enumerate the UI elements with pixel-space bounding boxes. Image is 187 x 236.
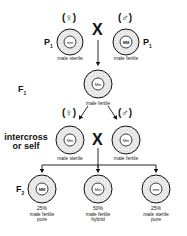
f2-result-MM: 25% male fertile pure bbox=[22, 206, 62, 223]
f2-result-mm: 25% male sterile pure bbox=[136, 206, 176, 223]
genotype-label: Mm bbox=[64, 138, 76, 143]
phenotype-label: male sterile bbox=[50, 156, 90, 161]
arrow-to-intercross-left bbox=[80, 106, 88, 118]
genotype-label: MM bbox=[120, 40, 132, 45]
phenotype-label: male fertile bbox=[106, 56, 146, 61]
male-symbol: (♂) bbox=[118, 108, 132, 118]
generation-label-f1: F1 bbox=[18, 84, 26, 96]
genotype-label: Mm bbox=[92, 187, 104, 192]
generation-label-f2: F2 bbox=[16, 184, 24, 196]
arrow-to-intercross-right bbox=[108, 106, 116, 118]
female-symbol: (♀) bbox=[62, 13, 76, 23]
genotype-label: mm bbox=[150, 187, 162, 192]
genotype-label: MM bbox=[36, 187, 48, 192]
phenotype-label: male fertile bbox=[78, 101, 118, 106]
cross-symbol: X bbox=[92, 22, 103, 38]
phenotype-label: male fertile bbox=[106, 156, 146, 161]
cross-symbol: X bbox=[92, 132, 103, 148]
genotype-label: mm bbox=[64, 40, 76, 45]
phenotype-label: male sterile bbox=[50, 56, 90, 61]
generation-label-p1-left: P1 bbox=[44, 37, 53, 49]
male-symbol: (♂) bbox=[118, 13, 132, 23]
genotype-label: Mm bbox=[92, 82, 104, 87]
f2-result-Mm: 50% male fertile hybrid bbox=[78, 206, 118, 223]
intercross-label: intercross or self bbox=[0, 133, 52, 151]
female-symbol: (♀) bbox=[62, 108, 76, 118]
generation-label-p1-right: P1 bbox=[143, 37, 152, 49]
genotype-label: Mm bbox=[120, 138, 132, 143]
